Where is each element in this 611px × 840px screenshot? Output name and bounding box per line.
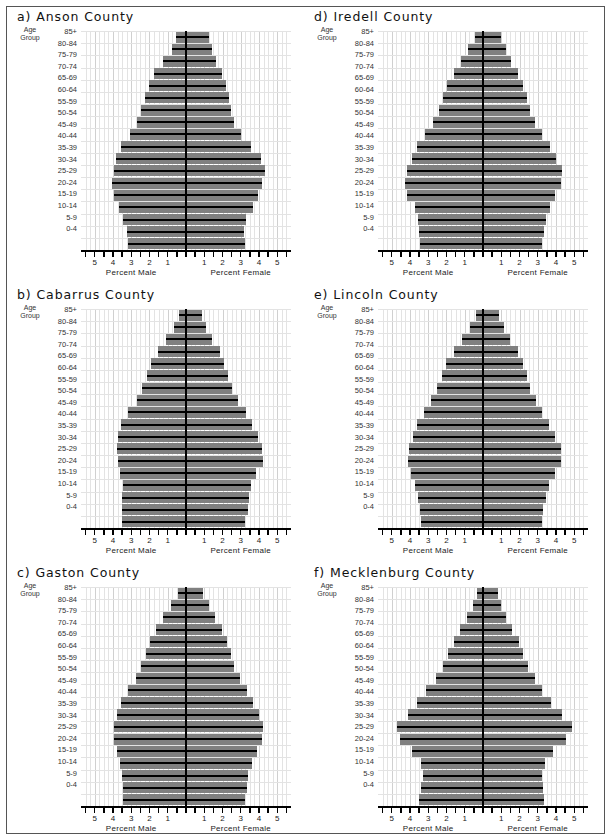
age-group-label: 65-69 [43,628,77,640]
x-axis-tick [437,807,438,813]
bar-outline-rule [114,738,262,740]
x-axis-tick-label: 4 [252,258,266,267]
x-axis-tick-label: 5 [88,258,102,267]
x-axis-tick [231,529,232,535]
x-axis-tick-label: 3 [531,536,545,545]
x-axis-tick [222,807,223,813]
panel-title: c) Gaston County [17,565,140,580]
x-axis-tick [258,251,259,257]
bar-outline-rule [121,702,252,704]
bar-outline-rule [442,375,527,377]
x-axis-tick [222,529,223,535]
zero-axis-line [482,31,484,250]
x-axis-tick-label: 4 [106,258,120,267]
age-group-label: 30-34 [43,154,77,166]
age-group-label: 50-54 [43,385,77,397]
age-group-header-line2: Group [310,312,344,320]
x-axis-tick-label: 3 [421,814,435,823]
x-axis-tick [464,251,465,257]
age-group-label: 85+ [340,582,374,594]
bar-outline-rule [417,702,550,704]
x-axis-tick [204,807,205,813]
x-axis-tick [85,529,86,535]
age-group-label: 75-79 [340,327,374,339]
x-axis-tick-label: 1 [494,814,508,823]
bar-outline-rule [420,243,542,245]
bar-outline-rule [477,592,498,594]
bar-outline-rule [128,243,245,245]
x-axis-tick [455,807,456,813]
x-axis-tick [204,251,205,257]
x-axis-tick [391,807,392,813]
x-axis-tick [501,807,502,813]
age-group-label: 30-34 [340,432,374,444]
x-axis-label-female: Percent Female [498,824,578,833]
x-axis-tick-label: 3 [421,536,435,545]
age-group-label: 20-24 [340,733,374,745]
bar-outline-rule [467,616,505,618]
age-group-label: 55-59 [43,96,77,108]
x-axis-tick [267,807,268,813]
bar-outline-rule [116,158,261,160]
x-axis-label-male: Percent Male [91,268,171,277]
x-axis-tick [103,251,104,257]
age-group-header-line2: Group [310,590,344,598]
bar-outline-rule [462,338,510,340]
bar-outline-rule [149,85,227,87]
bar-outline-rule [460,629,512,631]
plot-area [378,31,588,250]
x-axis-tick-label: 4 [106,536,120,545]
age-group-label: 45-49 [340,675,374,687]
bar-outline-rule [117,448,262,450]
age-group-label: 70-74 [43,617,77,629]
age-group-label: 15-19 [43,466,77,478]
x-axis-tick [213,251,214,257]
x-axis-tick [185,529,186,535]
age-group-label: 25-29 [43,721,77,733]
x-axis-tick-label: 1 [197,258,211,267]
bar-outline-rule [446,363,523,365]
x-axis-tick [149,251,150,257]
x-axis-tick-label: 2 [216,814,230,823]
x-axis-tick-label: 5 [567,814,581,823]
bar-outline-rule [409,448,561,450]
x-axis-tick-label: 2 [513,536,527,545]
age-group-label: 40-44 [340,686,374,698]
age-group-label: 70-74 [340,61,374,73]
x-axis-tick-label: 4 [403,536,417,545]
age-group-label: 25-29 [340,443,374,455]
age-group-label: 80-84 [340,594,374,606]
panel-iredell-county: d) Iredell CountyAgeGroup85+80-8475-7970… [306,7,602,282]
age-group-label: 15-19 [43,744,77,756]
x-axis-tick [400,251,401,257]
age-group-label: 5-9 [340,768,374,780]
bar-outline-rule [437,387,530,389]
bar-outline-rule [123,799,245,801]
age-group-label: 50-54 [43,663,77,675]
zero-axis-line [482,587,484,806]
age-group-label: 10-14 [340,756,374,768]
age-group-label: 70-74 [340,339,374,351]
x-axis-tick [391,529,392,535]
x-axis-tick [546,251,547,257]
x-axis-tick-label: 1 [197,814,211,823]
age-group-header-line1: Age [310,304,344,312]
bar-outline-rule [413,436,555,438]
age-group-label: 5-9 [43,768,77,780]
x-axis-tick [446,251,447,257]
x-axis-tick [194,251,195,257]
x-axis-tick [391,251,392,257]
x-axis-tick [131,251,132,257]
x-axis-tick [277,251,278,257]
x-axis-tick [574,807,575,813]
bar-outline-rule [117,750,258,752]
panel-title: d) Iredell County [314,9,433,24]
zero-axis-line [185,31,187,250]
plot-area [81,587,291,806]
x-axis-tick [231,251,232,257]
age-group-label: 70-74 [43,61,77,73]
x-axis-tick [267,529,268,535]
x-axis-tick [473,251,474,257]
age-group-label: 15-19 [340,466,374,478]
x-axis-tick [418,807,419,813]
